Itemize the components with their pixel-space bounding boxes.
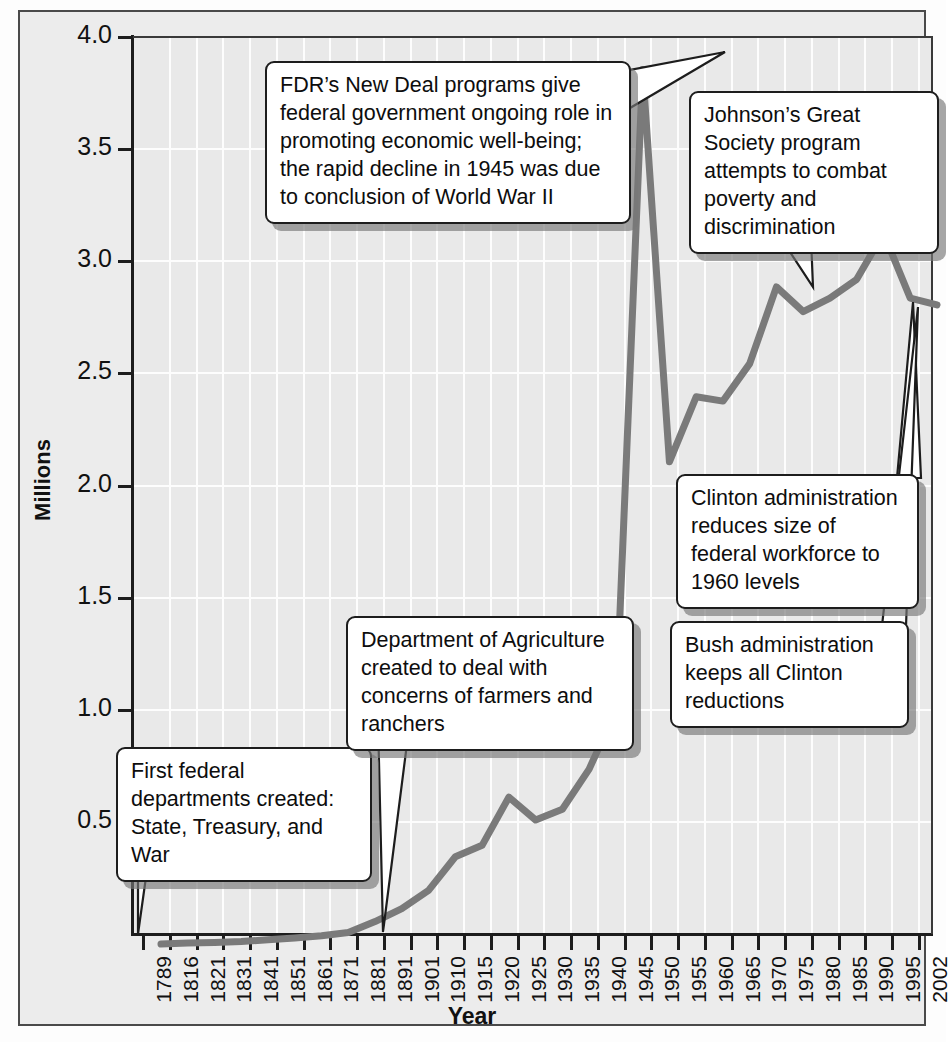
x-tick bbox=[196, 936, 199, 950]
x-tick bbox=[249, 936, 252, 950]
x-tick bbox=[864, 936, 867, 950]
x-tick-label: 1831 bbox=[232, 956, 256, 1003]
x-tick bbox=[410, 936, 413, 950]
x-tick-label: 1816 bbox=[179, 956, 203, 1003]
x-tick-label: 1861 bbox=[313, 956, 337, 1003]
x-tick bbox=[570, 936, 573, 950]
x-tick-label: 1910 bbox=[446, 956, 470, 1003]
x-tick-label: 1990 bbox=[874, 956, 898, 1003]
y-tick bbox=[118, 148, 131, 151]
x-tick bbox=[356, 936, 359, 950]
x-tick-label: 1925 bbox=[527, 956, 551, 1003]
y-tick bbox=[118, 709, 131, 712]
h-gridline bbox=[133, 372, 933, 374]
x-tick-label: 1960 bbox=[714, 956, 738, 1003]
x-tick bbox=[624, 936, 627, 950]
y-tick bbox=[118, 260, 131, 263]
x-tick bbox=[169, 936, 172, 950]
x-tick-label: 1970 bbox=[767, 956, 791, 1003]
x-tick-label: 1980 bbox=[821, 956, 845, 1003]
x-tick-label: 1950 bbox=[660, 956, 684, 1003]
h-gridline bbox=[133, 260, 933, 262]
x-tick-label: 1985 bbox=[848, 956, 872, 1003]
x-tick bbox=[731, 936, 734, 950]
x-tick bbox=[597, 936, 600, 950]
x-tick-label: 1965 bbox=[741, 956, 765, 1003]
x-tick-label: 1940 bbox=[607, 956, 631, 1003]
x-tick-label: 1975 bbox=[794, 956, 818, 1003]
x-tick bbox=[757, 936, 760, 950]
y-tick-label: 3.5 bbox=[28, 132, 112, 161]
x-tick bbox=[650, 936, 653, 950]
callout-johnson-great-society: Johnson’s Great Society program attempts… bbox=[689, 91, 939, 254]
callout-first-departments: First federal departments created: State… bbox=[116, 747, 372, 882]
x-tick bbox=[677, 936, 680, 950]
plot-top-border bbox=[133, 36, 933, 38]
x-tick bbox=[704, 936, 707, 950]
x-tick bbox=[918, 936, 921, 950]
x-tick-label: 1930 bbox=[553, 956, 577, 1003]
x-tick bbox=[838, 936, 841, 950]
x-tick bbox=[436, 936, 439, 950]
x-tick-label: 1881 bbox=[366, 956, 390, 1003]
x-tick bbox=[222, 936, 225, 950]
y-tick-label: 2.5 bbox=[28, 356, 112, 385]
x-tick-label: 1821 bbox=[206, 956, 230, 1003]
x-tick-label: 1891 bbox=[393, 956, 417, 1003]
x-tick bbox=[543, 936, 546, 950]
x-tick-label: 1789 bbox=[152, 956, 176, 1003]
y-tick-label: 1.0 bbox=[28, 693, 112, 722]
x-tick-label: 1955 bbox=[687, 956, 711, 1003]
callout-clinton-reductions: Clinton administration reduces size of f… bbox=[676, 474, 919, 609]
x-tick bbox=[303, 936, 306, 950]
x-tick-label: 1995 bbox=[901, 956, 925, 1003]
x-tick-label: 1945 bbox=[634, 956, 658, 1003]
x-tick-label: 1901 bbox=[420, 956, 444, 1003]
v-gridline bbox=[650, 37, 652, 934]
y-axis-title: Millions bbox=[30, 439, 56, 521]
x-tick-label: 1871 bbox=[339, 956, 363, 1003]
chart-frame: 0.51.01.52.02.53.03.54.0 178918161821183… bbox=[18, 10, 926, 1026]
x-tick-label: 1920 bbox=[500, 956, 524, 1003]
y-tick-label: 0.5 bbox=[28, 805, 112, 834]
x-tick bbox=[276, 936, 279, 950]
callout-bush-keeps-reductions: Bush administration keeps all Clinton re… bbox=[670, 621, 909, 728]
y-tick bbox=[118, 372, 131, 375]
x-tick-label: 1841 bbox=[259, 956, 283, 1003]
x-tick bbox=[463, 936, 466, 950]
x-tick-label: 1935 bbox=[580, 956, 604, 1003]
y-tick bbox=[118, 36, 131, 39]
x-tick bbox=[490, 936, 493, 950]
x-tick bbox=[784, 936, 787, 950]
x-tick bbox=[811, 936, 814, 950]
y-tick-label: 1.5 bbox=[28, 581, 112, 610]
y-tick bbox=[118, 485, 131, 488]
x-tick bbox=[329, 936, 332, 950]
x-tick bbox=[383, 936, 386, 950]
x-tick-label: 1915 bbox=[473, 956, 497, 1003]
x-tick-label: 2002 bbox=[928, 956, 952, 1003]
y-tick-label: 3.0 bbox=[28, 244, 112, 273]
y-tick bbox=[118, 597, 131, 600]
x-tick bbox=[142, 936, 145, 950]
callout-dept-agriculture: Department of Agriculture created to dea… bbox=[346, 616, 634, 751]
callout-fdr-new-deal: FDR’s New Deal programs give federal gov… bbox=[265, 61, 631, 224]
x-axis-title: Year bbox=[20, 1003, 924, 1030]
x-tick bbox=[517, 936, 520, 950]
x-tick-label: 1851 bbox=[286, 956, 310, 1003]
x-tick bbox=[891, 936, 894, 950]
y-tick-label: 4.0 bbox=[28, 20, 112, 49]
